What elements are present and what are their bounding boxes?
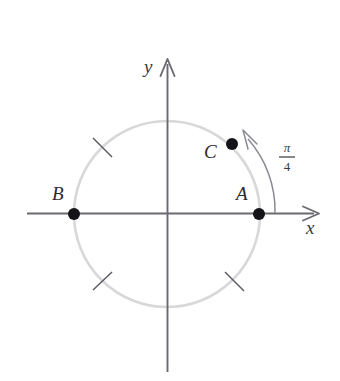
point-a-dot	[253, 208, 265, 220]
unit-circle-figure: y x π 4 A B C	[0, 0, 340, 381]
angle-label-denominator: 4	[284, 159, 291, 174]
angle-label: π 4	[279, 140, 295, 174]
angle-arc-arrowhead	[243, 130, 257, 149]
y-axis-label: y	[142, 56, 153, 77]
point-c-label: C	[204, 141, 217, 162]
point-b-dot	[68, 208, 80, 220]
point-c-dot	[226, 138, 238, 150]
x-axis-label: x	[305, 217, 315, 238]
tick-lower-right	[225, 272, 244, 291]
point-b-label: B	[52, 183, 64, 204]
point-a-label: A	[234, 183, 248, 204]
circle-tick-marks	[93, 138, 244, 291]
figure-canvas: y x π 4 A B C	[0, 0, 340, 381]
y-axis	[161, 59, 175, 372]
angle-label-numerator: π	[284, 140, 291, 155]
